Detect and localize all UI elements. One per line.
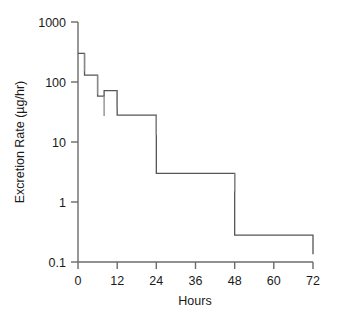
y-tick-label-100: 100 [45, 76, 66, 90]
chart-background [0, 0, 339, 321]
y-tick-label-1: 1 [59, 196, 66, 210]
x-tick-label-48: 48 [228, 274, 242, 288]
y-axis-title: Excretion Rate (µg/hr) [13, 81, 27, 204]
x-tick-label-0: 0 [75, 274, 82, 288]
excretion-rate-step-chart: 1000 100 10 1 0.1 0 12 24 36 48 60 72 [0, 0, 339, 321]
y-tick-label-1000: 1000 [38, 16, 66, 30]
x-tick-label-72: 72 [306, 274, 320, 288]
x-tick-label-24: 24 [149, 274, 163, 288]
x-tick-label-36: 36 [189, 274, 203, 288]
y-tick-label-10: 10 [52, 136, 66, 150]
x-tick-label-12: 12 [110, 274, 124, 288]
y-tick-label-0.1: 0.1 [49, 256, 66, 270]
x-tick-label-60: 60 [267, 274, 281, 288]
x-axis-title: Hours [178, 294, 211, 308]
chart-figure: 1000 100 10 1 0.1 0 12 24 36 48 60 72 [0, 0, 339, 321]
